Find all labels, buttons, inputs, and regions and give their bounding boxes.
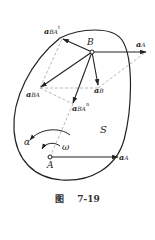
label-omega: ω <box>62 143 69 152</box>
label-B: B <box>87 38 94 47</box>
omega-arc-icon <box>42 143 60 149</box>
caption-prefix: 图 <box>55 194 64 204</box>
label-aBA-n: aBAn <box>72 104 89 113</box>
vector-aBA-n <box>73 52 92 103</box>
label-A: A <box>47 161 54 170</box>
label-S: S <box>100 125 107 135</box>
vector-aB <box>92 52 98 85</box>
figure-caption: 图 7-19 <box>0 192 155 205</box>
label-alpha: α <box>24 138 30 147</box>
label-aB: aB <box>94 86 104 95</box>
caption-number: 7-19 <box>77 194 100 204</box>
vector-aBA <box>41 52 92 87</box>
label-aBA-t: aBAt <box>44 27 60 36</box>
point-A <box>48 155 52 159</box>
label-aA-bottom: aA <box>119 153 129 162</box>
point-B <box>90 50 94 54</box>
label-aA-top: aA <box>136 40 146 49</box>
alpha-arc-icon <box>30 130 70 140</box>
label-aBA: aBA <box>26 90 40 99</box>
